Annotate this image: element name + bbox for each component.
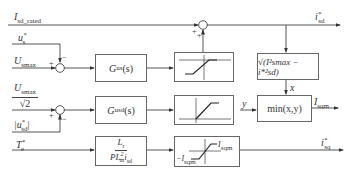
min-label: min(x,y) bbox=[267, 103, 302, 114]
sum3-plus-sign-b: + bbox=[197, 32, 202, 40]
limiter-2-block bbox=[174, 95, 234, 125]
limiter-neg-label: −Isqm bbox=[176, 155, 196, 166]
gusd-sub: usd bbox=[114, 106, 124, 114]
usmax-over-sqrt2-label: Usmax √2 bbox=[12, 82, 38, 109]
isd-rated-label: Isd_rated bbox=[14, 12, 41, 25]
isd-out-label: i*sd bbox=[315, 11, 325, 25]
x-label: x bbox=[290, 83, 294, 93]
sqrt-block: √(I²smax − i*²sd) bbox=[257, 53, 319, 80]
sum1-minus-sign: − bbox=[62, 54, 67, 62]
gain-den-tail-sub: sd bbox=[127, 157, 132, 163]
saturation-icon bbox=[175, 52, 233, 82]
min-block: min(x,y) bbox=[257, 95, 312, 122]
torque-gain-block: Lr PL2misd bbox=[95, 136, 147, 166]
limiter-3-block: Isqm −Isqm bbox=[174, 136, 240, 167]
limiter-1-block bbox=[174, 52, 234, 82]
gusd-main: G bbox=[107, 105, 114, 116]
sum3-plus-sign-a: + bbox=[192, 28, 197, 36]
gain-num-sub: r bbox=[123, 143, 125, 149]
us-star-label: u*s bbox=[18, 32, 25, 46]
te-star-label: T*e bbox=[16, 139, 24, 153]
y-label: y bbox=[242, 99, 246, 109]
gus-main: G bbox=[109, 63, 116, 74]
gus-block: Gus(s) bbox=[95, 54, 147, 82]
saturation-icon bbox=[175, 95, 233, 125]
usmax-label: Usmax bbox=[14, 56, 36, 69]
isq-out-label: i*sq bbox=[321, 137, 331, 151]
sum2-plus-sign: + bbox=[49, 112, 54, 120]
gusd-block: Gusd(s) bbox=[95, 96, 147, 124]
sum1-plus-sign: + bbox=[49, 60, 54, 68]
sqrt-label: √(I²smax − i*²sd) bbox=[258, 57, 318, 77]
sum2-minus-sign: − bbox=[62, 116, 67, 124]
gus-tail: (s) bbox=[122, 63, 133, 74]
isqm-label: Isqm bbox=[314, 97, 329, 110]
limiter-pos-label: Isqm bbox=[218, 141, 232, 152]
gusd-tail: (s) bbox=[124, 105, 135, 116]
torque-gain-fraction: Lr PL2misd bbox=[110, 138, 132, 164]
usd-abs-label: |u*sd| bbox=[14, 119, 30, 133]
